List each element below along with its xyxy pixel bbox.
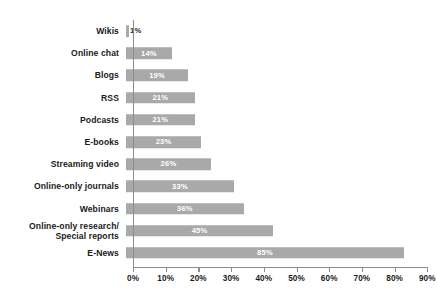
x-axis-tick <box>133 267 134 272</box>
x-axis-tick-label: 90% <box>419 274 436 283</box>
x-axis-tick <box>395 267 396 272</box>
y-axis-line <box>133 20 134 268</box>
bar-value-label: 21% <box>152 93 168 102</box>
chart-row: E-News85% <box>0 242 437 264</box>
x-axis-line <box>133 267 428 268</box>
bar-value-label: 85% <box>257 248 273 257</box>
bar: 23% <box>126 136 201 148</box>
x-axis-tick <box>329 267 330 272</box>
category-label: Podcasts <box>0 115 126 125</box>
bar-value-label: 33% <box>172 182 188 191</box>
chart-row: Streaming video26% <box>0 153 437 175</box>
bar-track: 33% <box>126 175 437 197</box>
chart-row: RSS21% <box>0 87 437 109</box>
category-label: E-News <box>0 248 126 258</box>
bar-value-label: 21% <box>152 115 168 124</box>
bar-track: 1% <box>126 20 437 42</box>
bar-value-label: 23% <box>156 138 172 147</box>
bar: 21% <box>126 92 195 104</box>
chart-rows: Wikis1%Online chat14%Blogs19%RSS21%Podca… <box>0 20 437 264</box>
category-label: RSS <box>0 93 126 103</box>
chart-row: Online-only journals33% <box>0 175 437 197</box>
bar: 33% <box>126 181 234 193</box>
chart-row: Blogs19% <box>0 64 437 86</box>
chart-row: Online-only research/ Special reports45% <box>0 220 437 242</box>
bar-value-label: 26% <box>161 160 177 169</box>
bar-track: 21% <box>126 109 437 131</box>
bar-track: 85% <box>126 242 437 264</box>
bar-value-label: 19% <box>149 71 165 80</box>
category-label: Webinars <box>0 204 126 214</box>
bar: 26% <box>126 158 211 170</box>
category-label: Online chat <box>0 48 126 58</box>
bar-value-label: 45% <box>192 226 208 235</box>
category-label: Streaming video <box>0 159 126 169</box>
bar-track: 26% <box>126 153 437 175</box>
chart-row: Webinars36% <box>0 198 437 220</box>
bar: 36% <box>126 203 244 215</box>
x-axis-tick-label: 40% <box>255 274 272 283</box>
x-axis-tick-label: 10% <box>157 274 174 283</box>
bar-track: 45% <box>126 220 437 242</box>
x-axis-tick-label: 60% <box>321 274 338 283</box>
x-axis-tick <box>297 267 298 272</box>
x-axis-tick-label: 80% <box>386 274 403 283</box>
bar-track: 36% <box>126 198 437 220</box>
x-axis-tick <box>231 267 232 272</box>
chart-row: Podcasts21% <box>0 109 437 131</box>
chart-row: E-books23% <box>0 131 437 153</box>
bar-track: 21% <box>126 87 437 109</box>
bar-track: 23% <box>126 131 437 153</box>
bar: 21% <box>126 114 195 126</box>
x-axis-tick-label: 0% <box>127 274 139 283</box>
chart-row: Online chat14% <box>0 42 437 64</box>
bar-track: 14% <box>126 42 437 64</box>
x-axis-tick-label: 70% <box>354 274 371 283</box>
x-axis-tick <box>362 267 363 272</box>
bar-track: 19% <box>126 64 437 86</box>
category-label: Online-only journals <box>0 181 126 191</box>
category-label: E-books <box>0 137 126 147</box>
bar: 1% <box>126 25 129 37</box>
bar: 45% <box>126 225 273 237</box>
category-label: Online-only research/ Special reports <box>0 221 126 241</box>
bar-value-label: 14% <box>141 49 157 58</box>
category-label: Blogs <box>0 70 126 80</box>
x-axis-tick <box>427 267 428 272</box>
x-axis-tick <box>264 267 265 272</box>
bar-value-label: 1% <box>130 27 141 36</box>
category-label: Wikis <box>0 26 126 36</box>
bar: 85% <box>126 247 404 259</box>
x-axis-tick <box>166 267 167 272</box>
chart-row: Wikis1% <box>0 20 437 42</box>
bar-chart: Wikis1%Online chat14%Blogs19%RSS21%Podca… <box>0 0 437 300</box>
bar: 19% <box>126 70 188 82</box>
x-axis-tick-label: 50% <box>288 274 305 283</box>
bar-value-label: 36% <box>177 204 193 213</box>
x-axis-tick-label: 20% <box>190 274 207 283</box>
x-axis-tick-label: 30% <box>223 274 240 283</box>
x-axis-tick <box>198 267 199 272</box>
